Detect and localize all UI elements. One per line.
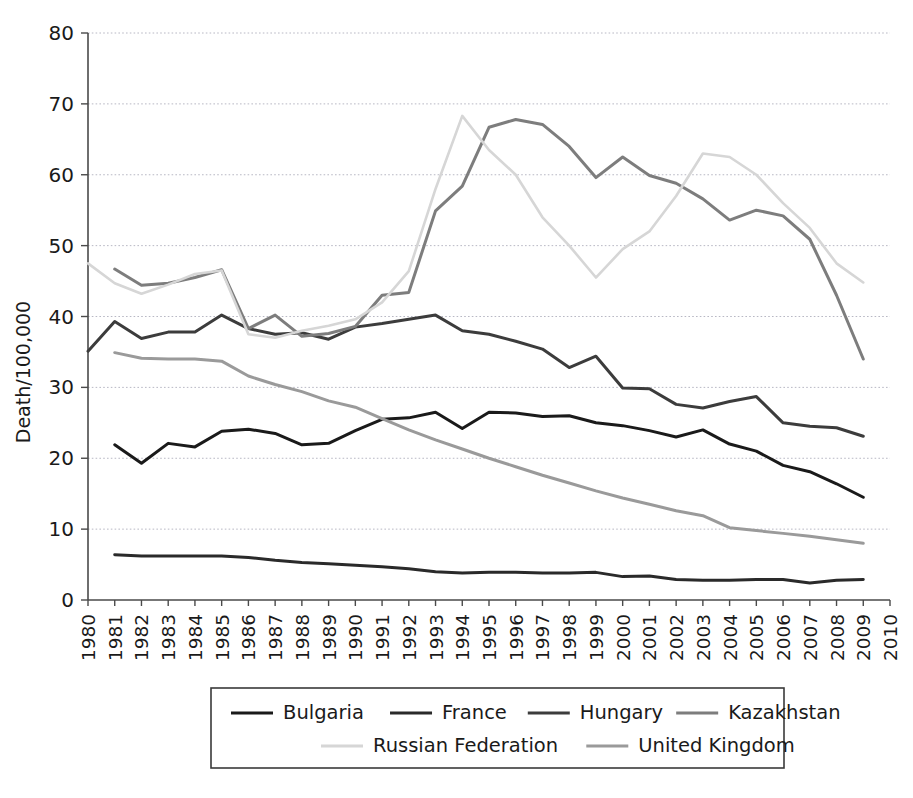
x-tick-label-1988: 1988	[292, 614, 313, 661]
legend-label-hungary[interactable]: Hungary	[580, 701, 663, 724]
x-tick-label-1996: 1996	[506, 614, 527, 661]
legend-label-russian-federation[interactable]: Russian Federation	[373, 734, 558, 757]
y-tick-label-40: 40	[49, 305, 74, 329]
x-tick-label-2001: 2001	[639, 614, 660, 661]
y-tick-label-30: 30	[49, 375, 74, 399]
x-tick-label-2003: 2003	[693, 614, 714, 661]
x-tick-label-1983: 1983	[158, 614, 179, 661]
x-tick-label-1986: 1986	[238, 614, 259, 661]
x-tick-labels-group: 1980198119821983198419851986198719881989…	[78, 614, 901, 661]
x-tick-label-1992: 1992	[399, 614, 420, 661]
x-tick-label-2006: 2006	[773, 614, 794, 661]
y-tick-label-0: 0	[61, 588, 74, 612]
legend-label-bulgaria[interactable]: Bulgaria	[283, 701, 364, 724]
x-tick-label-2004: 2004	[720, 614, 741, 661]
chart-background	[0, 0, 913, 798]
x-tick-label-2009: 2009	[853, 614, 874, 661]
x-tick-label-1984: 1984	[185, 614, 206, 661]
x-tick-label-2008: 2008	[827, 614, 848, 661]
y-tick-label-80: 80	[49, 21, 74, 45]
x-tick-label-2007: 2007	[800, 614, 821, 661]
x-tick-label-2000: 2000	[613, 614, 634, 661]
x-tick-label-1980: 1980	[78, 614, 99, 661]
legend-label-kazakhstan[interactable]: Kazakhstan	[728, 701, 840, 724]
y-tick-label-60: 60	[49, 163, 74, 187]
x-tick-label-2005: 2005	[746, 614, 767, 661]
y-axis-title: Death/100,000	[12, 301, 34, 443]
x-tick-label-1995: 1995	[479, 614, 500, 661]
x-tick-label-1990: 1990	[345, 614, 366, 661]
y-tick-label-10: 10	[49, 517, 74, 541]
y-tick-labels-group: 01020304050607080	[49, 21, 74, 612]
legend-label-france[interactable]: France	[442, 701, 507, 724]
x-tick-label-1997: 1997	[532, 614, 553, 661]
y-tick-label-50: 50	[49, 234, 74, 258]
x-tick-label-1993: 1993	[426, 614, 447, 661]
x-tick-label-1989: 1989	[319, 614, 340, 661]
x-tick-label-1985: 1985	[212, 614, 233, 661]
x-tick-label-1982: 1982	[131, 614, 152, 661]
x-tick-label-1991: 1991	[372, 614, 393, 661]
x-tick-label-1998: 1998	[559, 614, 580, 661]
y-axis-label-group: Death/100,000	[12, 301, 34, 443]
y-tick-label-20: 20	[49, 446, 74, 470]
x-tick-label-1994: 1994	[452, 614, 473, 661]
legend-label-united-kingdom[interactable]: United Kingdom	[638, 734, 795, 757]
x-tick-label-2010: 2010	[880, 614, 901, 661]
x-tick-label-2002: 2002	[666, 614, 687, 661]
line-chart-figure: Death/100,000 01020304050607080 19801981…	[0, 0, 913, 798]
x-tick-label-1987: 1987	[265, 614, 286, 661]
x-tick-label-1999: 1999	[586, 614, 607, 661]
x-tick-label-1981: 1981	[105, 614, 126, 661]
y-tick-label-70: 70	[49, 92, 74, 116]
